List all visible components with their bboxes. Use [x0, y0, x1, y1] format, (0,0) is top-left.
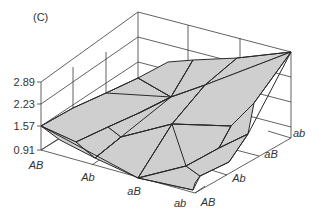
- x-category-AB: AB: [28, 159, 44, 171]
- z-tick-2.23: 2.23: [14, 98, 35, 110]
- x-category-aB: aB: [127, 185, 140, 197]
- y-category-AB: AB: [200, 196, 216, 208]
- z-tick-2.89: 2.89: [14, 76, 35, 88]
- y-category-ab: ab: [293, 127, 305, 139]
- z-tick-0.91: 0.91: [14, 144, 35, 156]
- x-category-ab: ab: [174, 197, 186, 209]
- z-tick-1.57: 1.57: [14, 120, 35, 132]
- y-category-Ab: Ab: [231, 172, 245, 184]
- surface-chart: (C) 2.89 2.23 1.57 0.91 AB Ab aB ab AB A…: [0, 0, 321, 219]
- panel-label: (C): [33, 11, 48, 23]
- surface-mesh: [41, 52, 291, 190]
- y-category-aB: aB: [264, 148, 277, 160]
- x-category-Ab: Ab: [80, 171, 94, 183]
